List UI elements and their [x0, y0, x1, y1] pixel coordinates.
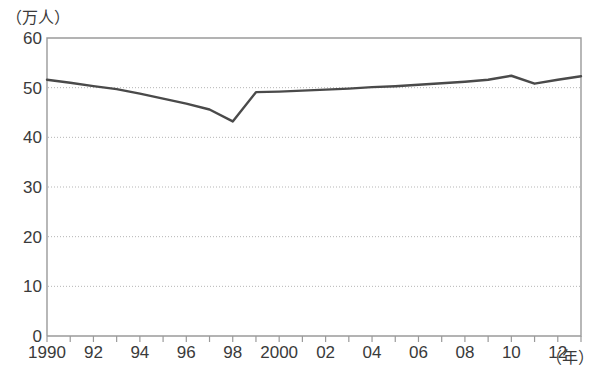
x-axis-tick-label: 96	[177, 344, 196, 361]
x-axis-tick-label: 04	[363, 344, 382, 361]
x-axis-tick-label: 10	[502, 344, 521, 361]
chart-page: （万人） （年） 0102030405060 19909294969820000…	[0, 0, 607, 371]
x-axis-tick-label: 06	[409, 344, 428, 361]
x-axis-tick-label: 12	[548, 344, 567, 361]
line-chart-plot	[0, 0, 607, 371]
gridlines	[48, 88, 580, 287]
x-axis-tick-label: 1990	[28, 344, 66, 361]
x-axis-tick-label: 94	[130, 344, 149, 361]
axis-frame	[47, 38, 581, 336]
x-axis-tick-label: 2000	[260, 344, 298, 361]
x-axis-tick-label: 08	[455, 344, 474, 361]
series-line	[47, 76, 581, 122]
x-axis-tick-label: 98	[223, 344, 242, 361]
x-axis-tick-label: 92	[84, 344, 103, 361]
x-axis-ticks	[47, 336, 581, 342]
x-axis-tick-label: 02	[316, 344, 335, 361]
data-series-line	[47, 76, 581, 122]
plot-frame	[47, 38, 581, 336]
